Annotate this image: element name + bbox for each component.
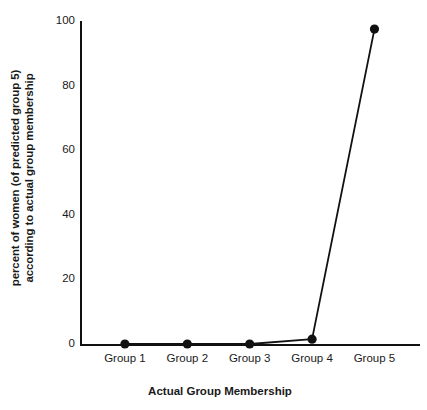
x-axis-title: Actual Group Membership (80, 384, 360, 398)
y-tick-label: 100 (40, 15, 75, 27)
x-tick-label: Group 3 (229, 352, 271, 365)
data-point-marker (183, 339, 192, 348)
line-chart-figure: percent of women (of predicted group 5) … (0, 0, 427, 410)
y-tick-label: 20 (40, 273, 75, 285)
y-axis-title-line-1: percent of women (of predicted group 5) (8, 70, 23, 287)
y-tick-label: 40 (40, 209, 75, 221)
series-line (125, 29, 375, 344)
y-tick-label: 80 (40, 80, 75, 92)
data-point-marker (120, 339, 129, 348)
data-series-layer (80, 21, 420, 346)
y-axis-title-line-2: according to actual group membership (22, 73, 37, 282)
x-axis-tick-labels: Group 1Group 2Group 3Group 4Group 5 (80, 352, 427, 368)
x-tick-label: Group 5 (354, 352, 396, 365)
y-tick-label: 0 (40, 338, 75, 350)
data-point-marker (245, 339, 254, 348)
x-tick-label: Group 1 (104, 352, 146, 365)
y-axis-title: percent of women (of predicted group 5) … (0, 8, 44, 348)
data-point-marker (307, 335, 316, 344)
data-point-marker (370, 24, 379, 33)
x-tick-label: Group 4 (291, 352, 333, 365)
plot-area (80, 21, 420, 346)
y-axis-tick-labels: 020406080100 (40, 0, 75, 410)
x-tick-label: Group 2 (167, 352, 209, 365)
y-tick-label: 60 (40, 144, 75, 156)
